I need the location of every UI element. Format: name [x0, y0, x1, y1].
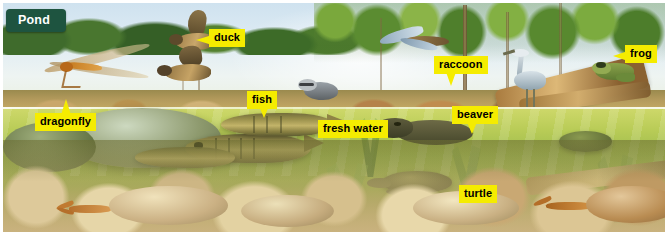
label-frog: frog	[625, 45, 657, 63]
heron-leg	[526, 89, 528, 108]
label-fresh-water: fresh water	[318, 120, 388, 138]
label-beaver-text: beaver	[457, 108, 493, 120]
raccoon	[298, 76, 341, 103]
heron-body	[514, 71, 547, 90]
dragonfly-legs	[61, 71, 83, 88]
beaver-label-pointer	[467, 122, 477, 134]
bottom-rock	[109, 186, 228, 225]
label-frog-text: frog	[630, 47, 652, 59]
label-fresh-water-text: fresh water	[323, 122, 383, 134]
dragonfly	[29, 40, 168, 100]
duck	[155, 44, 221, 90]
raccoon-label-pointer	[446, 72, 456, 86]
heron	[506, 49, 559, 109]
pond-bottom-shading	[3, 140, 665, 232]
label-raccoon: raccoon	[434, 56, 488, 74]
section-banner: Pond	[6, 9, 66, 32]
label-turtle-text: turtle	[464, 187, 492, 199]
label-turtle: turtle	[459, 185, 497, 203]
label-fish-text: fish	[252, 93, 272, 105]
frog-eye	[596, 62, 606, 68]
label-raccoon-text: raccoon	[439, 58, 483, 70]
figure-root: Pond duck dragonfly fish fresh water rac…	[0, 0, 668, 245]
heron-head	[512, 49, 529, 57]
section-banner-label: Pond	[18, 13, 50, 27]
raccoon-mask	[299, 83, 314, 86]
flying-bird	[374, 24, 460, 61]
label-dragonfly-text: dragonfly	[40, 115, 91, 127]
heron-leg	[533, 89, 535, 108]
label-duck-text: duck	[214, 31, 240, 43]
water-surface-line	[3, 107, 665, 109]
frog-leg	[616, 73, 635, 81]
label-duck: duck	[209, 29, 245, 47]
beaver-eye	[394, 122, 401, 126]
fish-label-pointer	[259, 106, 269, 118]
crayfish	[56, 200, 116, 218]
label-dragonfly: dragonfly	[35, 113, 96, 131]
crayfish-body	[69, 205, 111, 213]
pond-illustration: Pond duck dragonfly fish fresh water rac…	[3, 3, 665, 232]
